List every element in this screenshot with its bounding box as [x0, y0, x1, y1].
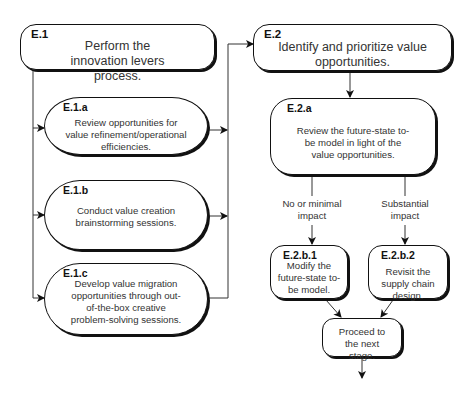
node-id: E.2.b.2 — [381, 249, 415, 261]
node-e2b1: E.2.b.1 Modify the future-state to-be mo… — [270, 245, 348, 299]
node-text: Revisit the supply chain design. — [369, 266, 447, 302]
node-e1: E.1 Perform the innovation levers proces… — [20, 24, 215, 70]
node-e1b: E.1.b Conduct value creation brainstormi… — [44, 180, 208, 250]
node-id: E.1.a — [63, 101, 88, 113]
node-e1c: E.1.c Develop value migration opportunit… — [44, 263, 208, 335]
node-id: E.2.a — [287, 102, 312, 114]
edge-label-no-impact: No or minimal impact — [276, 198, 348, 222]
node-text: Develop value migration opportunities th… — [45, 278, 207, 326]
node-text: Review opportunities for value refinemen… — [45, 117, 207, 153]
node-text: Identify and prioritize value opportunit… — [254, 40, 451, 70]
edge-label-substantial-impact: Substantial impact — [372, 198, 438, 222]
node-text: Conduct value creation brainstorming ses… — [45, 205, 207, 229]
node-text: Proceed to the next stage. — [323, 326, 401, 362]
node-e2: E.2 Identify and prioritize value opport… — [253, 24, 452, 71]
node-text: Perform the innovation levers process. — [21, 39, 214, 84]
node-text: Modify the future-state to-be model. — [271, 260, 347, 296]
node-e2a: E.2.a Review the future-state to-be mode… — [270, 98, 436, 175]
node-id: E.1.b — [63, 184, 88, 196]
node-e2b2: E.2.b.2 Revisit the supply chain design. — [368, 245, 448, 299]
node-text: Review the future-state to-be model in l… — [271, 125, 435, 161]
node-id: E.2 — [264, 28, 281, 40]
node-e1a: E.1.a Review opportunities for value ref… — [44, 97, 208, 155]
node-next-stage: Proceed to the next stage. — [322, 318, 402, 357]
